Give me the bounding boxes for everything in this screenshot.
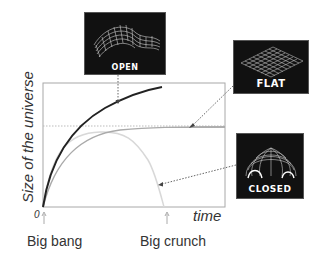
open-label: OPEN <box>85 63 165 72</box>
closed-universe-panel: CLOSED <box>236 133 304 199</box>
closed-label: CLOSED <box>237 184 303 194</box>
closed-curve <box>43 132 164 207</box>
open-universe-panel: OPEN <box>84 12 166 75</box>
y-axis-label: Size of the universe <box>19 71 36 203</box>
flat-label: FLAT <box>234 78 308 89</box>
saddle-surface-icon <box>86 15 166 63</box>
flat-pointer-line <box>192 86 233 126</box>
sphere-dome-icon <box>238 136 304 184</box>
x-axis-label: time <box>193 207 221 224</box>
open-curve <box>43 87 162 207</box>
flat-universe-panel: FLAT <box>233 40 309 94</box>
chart-frame <box>43 83 225 207</box>
flat-grid-icon <box>235 43 309 81</box>
big-crunch-label: Big crunch <box>140 233 206 249</box>
big-bang-label: Big bang <box>27 233 82 249</box>
origin-label: 0 <box>34 209 40 220</box>
